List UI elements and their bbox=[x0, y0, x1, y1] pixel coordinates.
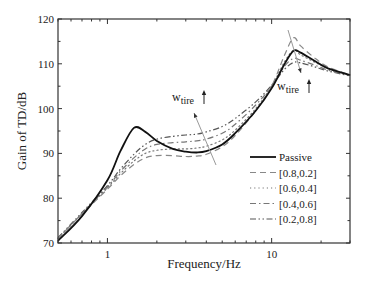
y-axis-label: Gain of TD/dB bbox=[14, 91, 29, 170]
y-tick-label: 110 bbox=[38, 58, 55, 70]
arrow-up-icon bbox=[202, 90, 206, 104]
y-tick-label: 70 bbox=[43, 237, 55, 249]
chart: 708090100110120110 wtirewtire Passive[0.… bbox=[0, 0, 367, 281]
svg-text:wtire: wtire bbox=[277, 79, 300, 95]
legend: Passive[0.8,0.2][0.6,0.4][0.4,0.6][0.2,0… bbox=[250, 151, 317, 225]
legend-label: Passive bbox=[279, 151, 312, 163]
series-0-6-0-4 bbox=[58, 50, 350, 238]
legend-item: [0.6,0.4] bbox=[250, 182, 317, 194]
y-tick-label: 80 bbox=[43, 192, 55, 204]
legend-label: [0.4,0.6] bbox=[279, 198, 317, 210]
svg-text:wtire: wtire bbox=[172, 90, 195, 106]
legend-label: [0.6,0.4] bbox=[279, 182, 317, 194]
w-tire-annotation: wtire bbox=[172, 90, 216, 165]
legend-item: [0.2,0.8] bbox=[250, 213, 317, 225]
legend-label: [0.2,0.8] bbox=[279, 213, 317, 225]
x-axis-label: Frequency/Hz bbox=[167, 256, 241, 271]
legend-item: Passive bbox=[250, 151, 312, 163]
annotations: wtirewtire bbox=[172, 30, 311, 165]
legend-label: [0.8,0.2] bbox=[279, 167, 317, 179]
legend-item: [0.8,0.2] bbox=[250, 167, 317, 179]
x-tick-label: 10 bbox=[266, 248, 278, 260]
series-0-2-0-8 bbox=[58, 62, 350, 238]
y-tick-label: 120 bbox=[38, 13, 55, 25]
y-tick-label: 90 bbox=[43, 147, 55, 159]
y-tick-label: 100 bbox=[38, 103, 55, 115]
data-series bbox=[58, 38, 350, 241]
arrow-up-icon bbox=[307, 79, 311, 93]
legend-item: [0.4,0.6] bbox=[250, 198, 317, 210]
x-tick-label: 1 bbox=[105, 248, 111, 260]
series-0-4-0-6 bbox=[58, 58, 350, 238]
